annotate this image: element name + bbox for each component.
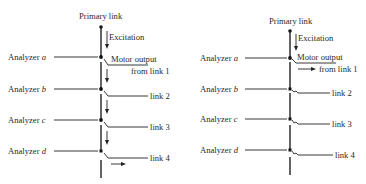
- arrowhead-icon: [105, 44, 109, 49]
- right-link-3-label: link 3: [332, 119, 352, 129]
- right-node-b: [289, 88, 292, 91]
- right-excitation-label: Excitation: [298, 33, 334, 43]
- left-node-d: [100, 150, 103, 153]
- left-diagram: Primary link Excitation Analyzer a Motor…: [8, 11, 171, 178]
- left-analyzer-d-label: Analyzer d: [8, 146, 47, 156]
- right-motor-output-label-2: from link 1: [319, 64, 358, 74]
- right-switch-b: [292, 90, 298, 93]
- left-primary-link-label: Primary link: [79, 11, 123, 21]
- left-motor-output-label: Motor output: [111, 54, 157, 64]
- left-link-2-label: link 2: [150, 91, 170, 101]
- left-analyzer-a-label: Analyzer a: [8, 52, 46, 62]
- right-switch-a: [292, 59, 296, 63]
- right-motor-output-label: Motor output: [297, 52, 343, 62]
- left-analyzer-b-label: Analyzer b: [8, 84, 47, 94]
- left-link-3-label: link 3: [150, 122, 170, 132]
- left-node-b: [99, 87, 103, 91]
- left-node-a: [99, 55, 103, 59]
- right-switch-c: [292, 120, 298, 124]
- arrowhead-icon: [311, 67, 316, 71]
- left-motor-output-label-2: from link 1: [131, 66, 170, 76]
- right-analyzer-c-label: Analyzer c: [200, 114, 238, 124]
- arrowhead-icon: [121, 162, 126, 166]
- left-switch-a: [104, 59, 108, 65]
- arrowhead-icon: [294, 46, 298, 51]
- left-node-c: [99, 118, 103, 122]
- right-switch-d: [292, 151, 298, 155]
- right-analyzer-d-label: Analyzer d: [200, 145, 239, 155]
- reflex-chain-figure: Primary link Excitation Analyzer a Motor…: [0, 0, 366, 184]
- left-switch-d: [104, 153, 108, 158]
- right-node-a: [288, 56, 292, 60]
- right-link-4-label: link 4: [335, 150, 356, 160]
- left-switch-c: [104, 122, 108, 127]
- right-diagram: Primary link Excitation Analyzer a Motor…: [200, 16, 358, 175]
- right-node-c: [289, 118, 292, 121]
- left-excitation-label: Excitation: [109, 32, 145, 42]
- arrowhead-icon: [105, 140, 109, 145]
- left-analyzer-c-label: Analyzer c: [8, 115, 46, 125]
- left-switch-b: [104, 91, 108, 96]
- right-analyzer-a-label: Analyzer a: [200, 53, 238, 63]
- right-link-2-label: link 2: [332, 88, 352, 98]
- arrowhead-icon: [105, 78, 109, 83]
- right-analyzer-b-label: Analyzer b: [200, 84, 239, 94]
- arrowhead-icon: [105, 109, 109, 114]
- right-node-d: [289, 149, 292, 152]
- right-primary-link-label: Primary link: [269, 16, 313, 26]
- left-link-4-label: link 4: [150, 153, 171, 163]
